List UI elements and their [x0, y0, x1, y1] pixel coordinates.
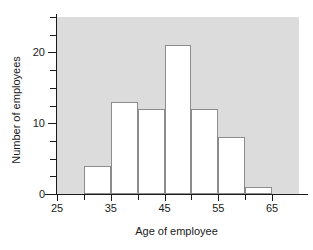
y-tick-label: 20 — [21, 47, 45, 58]
y-axis-line — [56, 14, 57, 195]
x-major-tick — [272, 195, 273, 201]
x-minor-tick — [245, 195, 246, 200]
y-minor-tick — [50, 159, 56, 160]
histogram-figure: Number of employees 01020 2535455565 Age… — [0, 0, 313, 250]
y-minor-tick — [50, 141, 56, 142]
histogram-bar — [218, 137, 245, 194]
histogram-bar — [138, 109, 165, 194]
x-tick-label: 25 — [42, 203, 72, 214]
x-major-tick — [165, 195, 166, 201]
y-minor-tick — [50, 70, 56, 71]
x-axis-title: Age of employee — [45, 225, 308, 237]
bars-container — [57, 17, 299, 194]
y-minor-tick — [50, 106, 56, 107]
y-minor-tick — [50, 17, 56, 18]
histogram-bar — [111, 102, 138, 194]
y-major-tick — [48, 194, 56, 195]
histogram-bar — [245, 187, 272, 194]
y-minor-tick — [50, 88, 56, 89]
x-minor-tick — [191, 195, 192, 200]
x-minor-tick — [84, 195, 85, 200]
y-axis-title: Number of employees — [8, 12, 24, 208]
y-tick-label: 0 — [21, 189, 45, 200]
x-major-tick — [111, 195, 112, 201]
x-tick-label: 55 — [203, 203, 233, 214]
x-major-tick — [57, 195, 58, 201]
histogram-bar — [165, 45, 192, 194]
x-minor-tick — [138, 195, 139, 200]
histogram-bar — [84, 166, 111, 194]
y-tick-label: 10 — [21, 118, 45, 129]
histogram-bar — [191, 109, 218, 194]
x-tick-label: 65 — [257, 203, 287, 214]
y-minor-tick — [50, 176, 56, 177]
plot-area — [57, 17, 299, 194]
x-tick-label: 35 — [96, 203, 126, 214]
y-minor-tick — [50, 35, 56, 36]
y-major-tick — [48, 123, 56, 124]
x-tick-label: 45 — [150, 203, 180, 214]
y-major-tick — [48, 52, 56, 53]
x-major-tick — [218, 195, 219, 201]
